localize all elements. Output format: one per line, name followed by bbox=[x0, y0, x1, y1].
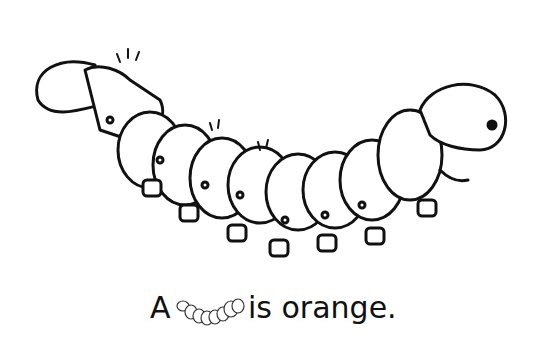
caterpillar-illustration bbox=[0, 0, 545, 290]
caption-suffix: is orange. bbox=[248, 290, 397, 325]
caption: A is orange. bbox=[0, 290, 545, 340]
caption-prefix: A bbox=[150, 290, 171, 325]
coloring-page: A is orange. bbox=[0, 0, 545, 351]
caterpillar-icon bbox=[175, 294, 245, 334]
